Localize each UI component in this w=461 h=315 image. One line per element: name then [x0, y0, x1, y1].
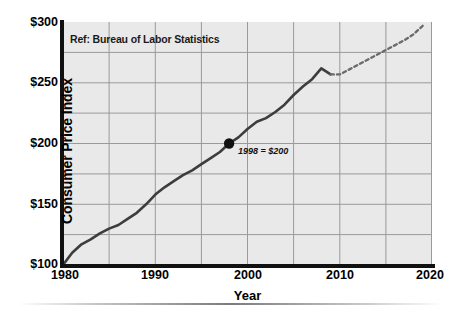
y-tick-200: $200: [2, 136, 58, 150]
cpi-1998-annotation-label: 1998 = $200: [238, 146, 288, 156]
cpi-line-chart: Ref: Bureau of Labor Statistics 1998 = $…: [0, 0, 461, 315]
source-reference-note: Ref: Bureau of Labor Statistics: [70, 33, 219, 45]
x-axis-title: Year: [63, 288, 432, 303]
x-axis-line: [60, 264, 435, 268]
y-tick-250: $250: [2, 75, 58, 89]
cpi-1998-marker-dot: [224, 138, 234, 148]
x-tick-2020: 2020: [395, 268, 461, 282]
plot-canvas: [63, 22, 432, 265]
y-tick-150: $150: [2, 197, 58, 211]
x-tick-1990: 1990: [120, 268, 190, 282]
plot-area: [63, 22, 432, 265]
series-actual-line: [63, 68, 331, 265]
series-projected-line: [331, 26, 423, 75]
x-tick-2010: 2010: [305, 268, 375, 282]
page-divider: [18, 303, 443, 305]
y-axis-title: Consumer Price Index: [59, 26, 75, 276]
x-tick-2000: 2000: [213, 268, 283, 282]
y-tick-300: $300: [2, 15, 58, 29]
